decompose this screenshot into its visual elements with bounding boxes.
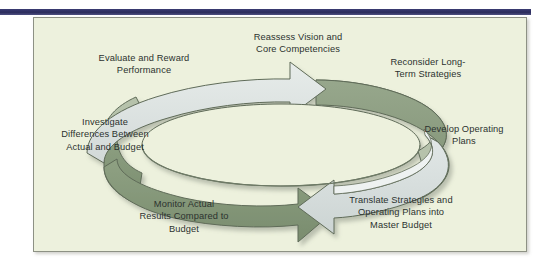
figure-root: Reassess Vision and Core Competencies Re… bbox=[0, 0, 554, 266]
step-label-monitor: Monitor Actual Results Compared to Budge… bbox=[114, 198, 254, 235]
step-label-reassess: Reassess Vision and Core Competencies bbox=[228, 31, 368, 56]
step-label-reconsider: Reconsider Long- Term Strategies bbox=[364, 56, 492, 81]
step-label-develop: Develop Operating Plans bbox=[402, 123, 526, 148]
step-label-translate: Translate Strategies and Operating Plans… bbox=[326, 194, 476, 231]
diagram-panel: Reassess Vision and Core Competencies Re… bbox=[33, 17, 527, 252]
step-label-investigate: Investigate Differences Between Actual a… bbox=[37, 116, 173, 153]
step-label-evaluate: Evaluate and Reward Performance bbox=[74, 52, 214, 77]
diagram-stage: Reassess Vision and Core Competencies Re… bbox=[34, 18, 528, 253]
top-divider-rule bbox=[0, 9, 531, 15]
